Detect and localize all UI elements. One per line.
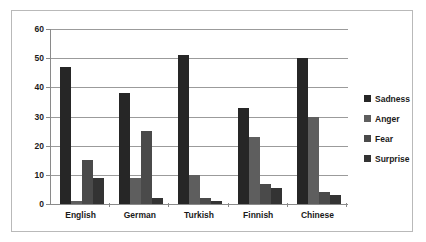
legend-swatch-icon xyxy=(364,135,371,142)
category-label-turkish: Turkish xyxy=(169,210,228,220)
bar-english-sadness[interactable] xyxy=(60,67,71,204)
bar-german-fear[interactable] xyxy=(141,131,152,204)
value-axis-tick-label: 30 xyxy=(35,112,44,122)
bar-finnish-sadness[interactable] xyxy=(238,108,249,204)
bar-turkish-surprise[interactable] xyxy=(211,201,222,204)
value-axis-tick-label: 20 xyxy=(35,141,44,151)
value-axis-tick xyxy=(46,175,50,176)
legend-label: Fear xyxy=(375,134,393,144)
category-label-chinese: Chinese xyxy=(288,210,347,220)
bar-english-anger[interactable] xyxy=(71,201,82,204)
bar-chinese-anger[interactable] xyxy=(308,117,319,205)
value-axis-tick-label: 50 xyxy=(35,53,44,63)
bar-finnish-fear[interactable] xyxy=(260,184,271,204)
legend-swatch-icon xyxy=(364,155,371,162)
category-label-english: English xyxy=(51,210,110,220)
value-axis-tick xyxy=(46,146,50,147)
legend-label: Anger xyxy=(375,114,400,124)
bar-finnish-anger[interactable] xyxy=(249,137,260,204)
chart-figure: 0102030405060 EnglishGermanTurkishFinnis… xyxy=(11,10,413,232)
bar-finnish-surprise[interactable] xyxy=(271,188,282,204)
legend-label: Surprise xyxy=(375,154,410,164)
category-axis-labels: EnglishGermanTurkishFinnishChinese xyxy=(51,210,347,220)
category-label-german: German xyxy=(110,210,169,220)
category-label-finnish: Finnish xyxy=(229,210,288,220)
bar-chinese-surprise[interactable] xyxy=(330,195,341,204)
legend-item-surprise[interactable]: Surprise xyxy=(364,154,410,163)
bar-turkish-anger[interactable] xyxy=(189,175,200,204)
chart-legend: SadnessAngerFearSurprise xyxy=(364,94,410,174)
bar-group-german xyxy=(110,29,169,204)
legend-swatch-icon xyxy=(364,115,371,122)
category-axis-tick xyxy=(346,203,347,207)
value-axis-tick xyxy=(46,117,50,118)
bar-group-finnish xyxy=(229,29,288,204)
category-axis xyxy=(50,204,348,205)
bar-group-turkish xyxy=(169,29,228,204)
bar-english-fear[interactable] xyxy=(82,160,93,204)
legend-swatch-icon xyxy=(364,95,371,102)
value-axis-tick-label: 0 xyxy=(39,199,44,209)
bar-turkish-fear[interactable] xyxy=(200,198,211,204)
value-axis-tick xyxy=(46,58,50,59)
value-axis-tick-label: 60 xyxy=(35,24,44,34)
bar-german-anger[interactable] xyxy=(130,178,141,204)
legend-label: Sadness xyxy=(375,94,410,104)
bar-group-chinese xyxy=(288,29,347,204)
bar-german-surprise[interactable] xyxy=(152,198,163,204)
value-axis-tick-label: 10 xyxy=(35,170,44,180)
bar-chinese-fear[interactable] xyxy=(319,192,330,204)
bar-german-sadness[interactable] xyxy=(119,93,130,204)
legend-item-anger[interactable]: Anger xyxy=(364,114,410,123)
value-axis-tick xyxy=(46,29,50,30)
bar-english-surprise[interactable] xyxy=(93,178,104,204)
value-axis-tick xyxy=(46,87,50,88)
bar-chinese-sadness[interactable] xyxy=(297,58,308,204)
bar-group-english xyxy=(51,29,110,204)
legend-item-fear[interactable]: Fear xyxy=(364,134,410,143)
legend-item-sadness[interactable]: Sadness xyxy=(364,94,410,103)
value-axis-tick-label: 40 xyxy=(35,82,44,92)
bar-turkish-sadness[interactable] xyxy=(178,55,189,204)
bar-groups xyxy=(51,29,347,204)
